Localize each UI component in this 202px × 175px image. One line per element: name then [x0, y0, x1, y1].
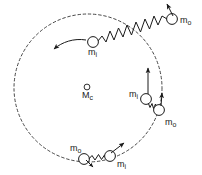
central-mass-label: Mc: [82, 91, 93, 100]
label-top-right-outer-mass: mo: [180, 16, 191, 25]
right-outer-velocity-arrow: [161, 93, 162, 106]
bottom-inner-mass-circle: [105, 151, 116, 162]
bottom-inner-velocity-arrow: [111, 143, 124, 153]
physics-diagram: Mc mi mo mi mo mo mi: [0, 0, 202, 175]
dashed-orbit-circle: [14, 14, 162, 162]
upper-left-velocity-arrow: [54, 39, 86, 49]
upper-left-inner-mass-circle: [88, 37, 99, 48]
bottom-spring: [89, 155, 105, 161]
right-outer-mass-circle: [154, 105, 165, 116]
label-right-inner-mass: mi: [129, 90, 138, 99]
top-right-outer-mass-circle: [167, 14, 178, 25]
label-bottom-inner-mass: mi: [117, 160, 126, 169]
right-inner-mass-circle: [141, 94, 152, 105]
bottom-outer-mass-circle: [79, 154, 90, 165]
label-upper-left-inner-mass: mi: [88, 48, 97, 57]
label-right-outer-mass: mo: [165, 118, 176, 127]
diagram-canvas: [0, 0, 202, 175]
label-bottom-outer-mass: mo: [70, 144, 81, 153]
